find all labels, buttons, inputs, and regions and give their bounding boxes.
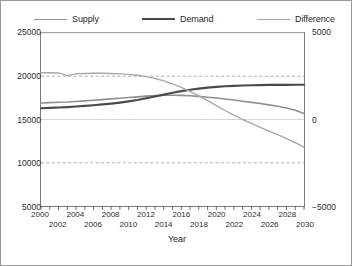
legend-label-supply: Supply xyxy=(72,11,99,27)
y-axis-left-tick: 25000 xyxy=(7,27,41,37)
y-axis-left-tick: 10000 xyxy=(7,158,41,168)
x-axis-tick: 2028 xyxy=(278,210,296,219)
data-lines xyxy=(41,33,304,206)
x-axis-title: Year xyxy=(1,234,352,244)
x-axis-tick: 2004 xyxy=(66,210,84,219)
x-axis-tick: 2030 xyxy=(296,220,314,229)
legend-label-difference: Difference xyxy=(295,11,335,27)
y-axis-left-tick: 15000 xyxy=(7,115,41,125)
x-axis-tick: 2008 xyxy=(102,210,120,219)
legend-swatch-demand xyxy=(142,18,175,20)
plot-area xyxy=(40,32,305,207)
legend-swatch-difference xyxy=(257,19,290,20)
x-axis-tick: 2000 xyxy=(31,210,49,219)
legend-item-difference: Difference xyxy=(257,11,335,27)
x-axis-tick: 2012 xyxy=(137,210,155,219)
x-axis-tick: 2014 xyxy=(155,220,173,229)
chart-figure: Supply Demand Difference 250002000015000… xyxy=(0,0,352,266)
chart-legend: Supply Demand Difference xyxy=(1,11,352,27)
x-axis-tick: 2026 xyxy=(261,220,279,229)
x-axis-tick: 2010 xyxy=(119,220,137,229)
x-axis-tick: 2006 xyxy=(84,220,102,229)
x-axis-tick: 2024 xyxy=(243,210,261,219)
x-axis-tick: 2020 xyxy=(208,210,226,219)
y-axis-right-tick: 0 xyxy=(312,115,352,125)
x-axis-tick: 2002 xyxy=(49,220,67,229)
x-axis-tick: 2018 xyxy=(190,220,208,229)
series-line-supply xyxy=(41,95,304,113)
legend-item-demand: Demand xyxy=(142,11,213,27)
y-axis-right-tick: 5000 xyxy=(312,27,352,37)
y-axis-left-tick: 20000 xyxy=(7,71,41,81)
x-axis-tick: 2016 xyxy=(172,210,190,219)
y-axis-right-tick: −5000 xyxy=(312,202,352,212)
legend-label-demand: Demand xyxy=(180,11,213,27)
legend-item-supply: Supply xyxy=(34,11,99,27)
legend-swatch-supply xyxy=(34,19,67,20)
x-axis-tick: 2022 xyxy=(225,220,243,229)
